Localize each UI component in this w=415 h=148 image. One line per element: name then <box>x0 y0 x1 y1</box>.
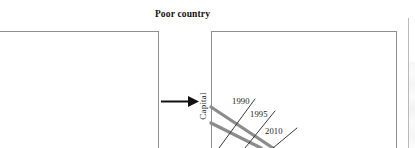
figure-container: Poor country Capital 1990 1995 2010 <box>0 0 415 148</box>
y-axis-label: Capital <box>198 92 208 119</box>
rightward-arrow <box>161 93 199 110</box>
margin-artifact <box>409 62 415 148</box>
annotation-2010: 2010 <box>265 126 283 136</box>
page-title: Poor country <box>120 9 245 19</box>
rich-country-panel <box>0 31 159 148</box>
arrow-icon <box>161 93 199 110</box>
plot-curves <box>211 31 397 148</box>
annotation-1995: 1995 <box>250 109 268 119</box>
annotation-1990: 1990 <box>232 96 250 106</box>
